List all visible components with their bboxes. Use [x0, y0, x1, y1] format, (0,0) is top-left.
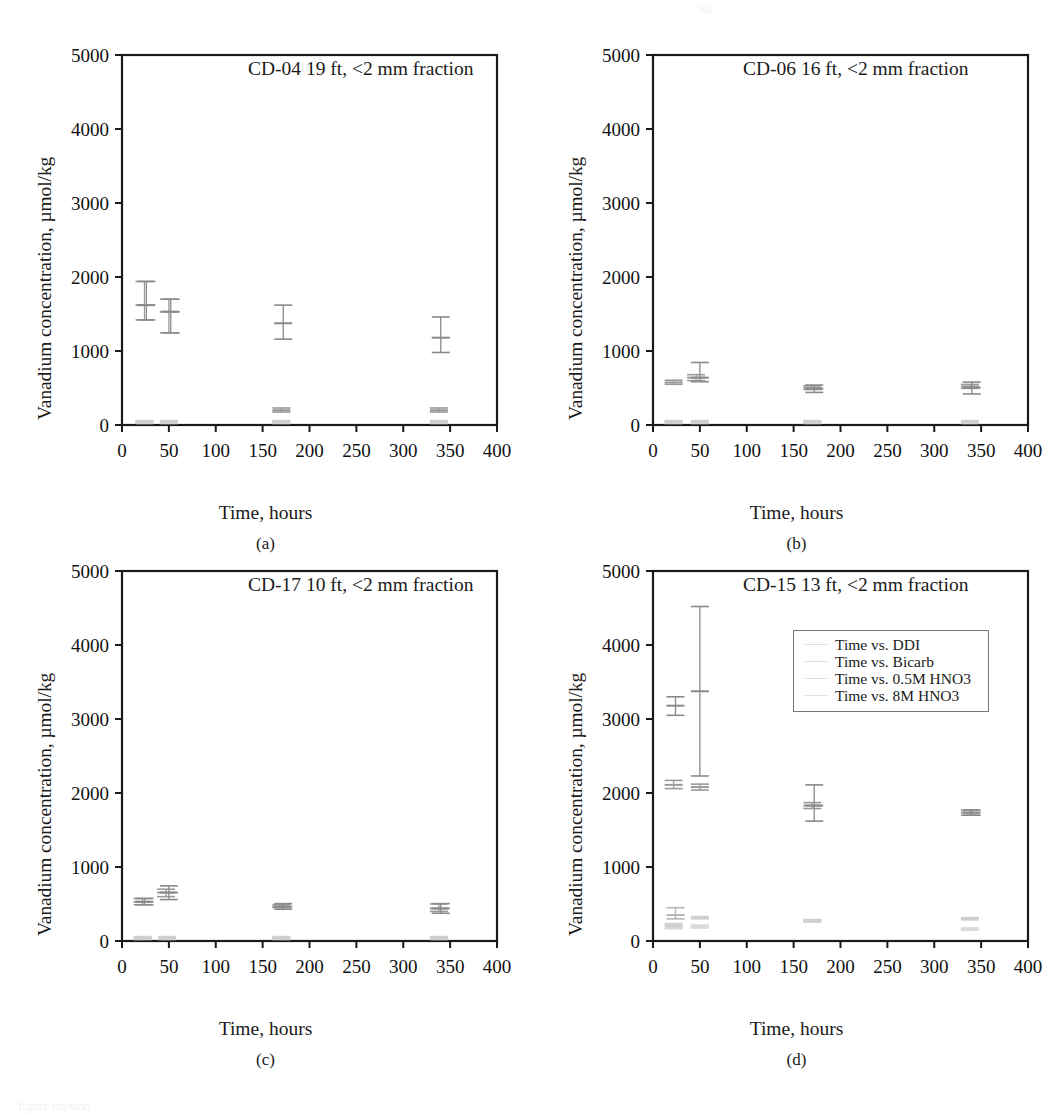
panel-a-plot: 0501001502002503003504000100020003000400…	[0, 0, 531, 558]
svg-text:2000: 2000	[602, 783, 640, 804]
legend-item: Time vs. Bicarb	[803, 653, 979, 670]
panel-b: Vanadium concentration, µmol/kg CD-06 16…	[531, 0, 1062, 558]
svg-text:400: 400	[483, 956, 512, 977]
legend-marker-bicarb-icon	[803, 657, 829, 667]
svg-text:0: 0	[100, 415, 110, 436]
svg-text:300: 300	[389, 440, 418, 461]
svg-text:400: 400	[483, 440, 512, 461]
svg-text:5000: 5000	[71, 45, 109, 66]
svg-text:50: 50	[159, 956, 178, 977]
svg-text:50: 50	[690, 956, 709, 977]
panel-b-plot: 0501001502002503003504000100020003000400…	[531, 0, 1062, 558]
svg-text:1000: 1000	[602, 341, 640, 362]
panel-c-letter: (c)	[0, 1050, 531, 1070]
svg-text:5000: 5000	[602, 561, 640, 582]
panel-c: Vanadium concentration, µmol/kg CD-17 10…	[0, 516, 531, 1074]
legend-label-hno3-05m: Time vs. 0.5M HNO3	[835, 670, 971, 687]
svg-text:50: 50	[690, 440, 709, 461]
svg-text:4000: 4000	[602, 635, 640, 656]
svg-text:0: 0	[117, 440, 127, 461]
svg-text:2000: 2000	[71, 267, 109, 288]
scan-artifact-bottom: figure caption	[18, 1098, 91, 1114]
panel-c-x-axis-label: Time, hours	[0, 1018, 531, 1040]
svg-text:0: 0	[100, 931, 110, 952]
svg-text:150: 150	[779, 956, 808, 977]
svg-text:150: 150	[779, 440, 808, 461]
svg-text:3000: 3000	[602, 193, 640, 214]
svg-text:0: 0	[648, 440, 658, 461]
svg-text:300: 300	[920, 956, 949, 977]
svg-text:400: 400	[1014, 440, 1043, 461]
svg-text:4000: 4000	[71, 635, 109, 656]
legend-item: Time vs. 8M HNO3	[803, 687, 979, 704]
svg-text:5000: 5000	[602, 45, 640, 66]
svg-text:2000: 2000	[602, 267, 640, 288]
svg-text:100: 100	[733, 440, 762, 461]
svg-text:100: 100	[202, 440, 231, 461]
svg-text:150: 150	[248, 956, 277, 977]
svg-text:0: 0	[117, 956, 127, 977]
svg-text:0: 0	[648, 956, 658, 977]
legend-marker-hno3-05m-icon	[803, 674, 829, 684]
panel-d-x-axis-label: Time, hours	[531, 1018, 1062, 1040]
legend-item: Time vs. DDI	[803, 636, 979, 653]
panel-a: Vanadium concentration, µmol/kg CD-04 19…	[0, 0, 531, 558]
svg-text:1000: 1000	[71, 857, 109, 878]
legend-label-ddi: Time vs. DDI	[835, 636, 920, 653]
svg-text:3000: 3000	[71, 193, 109, 214]
legend-item: Time vs. 0.5M HNO3	[803, 670, 979, 687]
svg-text:200: 200	[295, 956, 324, 977]
data-layer	[134, 886, 450, 940]
legend-marker-ddi-icon	[803, 640, 829, 650]
svg-text:4000: 4000	[71, 119, 109, 140]
svg-text:100: 100	[733, 956, 762, 977]
svg-text:1000: 1000	[71, 341, 109, 362]
svg-text:250: 250	[873, 956, 902, 977]
svg-text:200: 200	[826, 956, 855, 977]
legend-label-bicarb: Time vs. Bicarb	[835, 653, 934, 670]
svg-text:350: 350	[436, 440, 465, 461]
panel-d-letter: (d)	[531, 1050, 1062, 1070]
svg-text:0: 0	[631, 415, 641, 436]
svg-text:350: 350	[967, 956, 996, 977]
data-layer	[665, 362, 981, 423]
svg-text:3000: 3000	[602, 709, 640, 730]
svg-text:250: 250	[873, 440, 902, 461]
svg-text:50: 50	[159, 440, 178, 461]
svg-text:200: 200	[295, 440, 324, 461]
legend: Time vs. DDI Time vs. Bicarb Time vs. 0.…	[793, 630, 989, 712]
svg-text:350: 350	[967, 440, 996, 461]
svg-text:3000: 3000	[71, 709, 109, 730]
svg-text:250: 250	[342, 440, 371, 461]
svg-text:0: 0	[631, 931, 641, 952]
svg-text:200: 200	[826, 440, 855, 461]
svg-text:150: 150	[248, 440, 277, 461]
svg-text:300: 300	[920, 440, 949, 461]
svg-text:1000: 1000	[602, 857, 640, 878]
svg-text:250: 250	[342, 956, 371, 977]
panel-d-plot: 0501001502002503003504000100020003000400…	[531, 516, 1062, 1074]
svg-text:5000: 5000	[71, 561, 109, 582]
legend-label-hno3-8m: Time vs. 8M HNO3	[835, 687, 959, 704]
svg-text:300: 300	[389, 956, 418, 977]
svg-text:350: 350	[436, 956, 465, 977]
svg-text:2000: 2000	[71, 783, 109, 804]
figure-root: gg Vanadium concentration, µmol/kg CD-04…	[0, 0, 1063, 1116]
svg-text:100: 100	[202, 956, 231, 977]
svg-text:400: 400	[1014, 956, 1043, 977]
legend-marker-hno3-8m-icon	[803, 691, 829, 701]
panel-c-plot: 0501001502002503003504000100020003000400…	[0, 516, 531, 1074]
panel-d: Vanadium concentration, µmol/kg CD-15 13…	[531, 516, 1062, 1074]
data-layer	[136, 281, 450, 423]
svg-text:4000: 4000	[602, 119, 640, 140]
